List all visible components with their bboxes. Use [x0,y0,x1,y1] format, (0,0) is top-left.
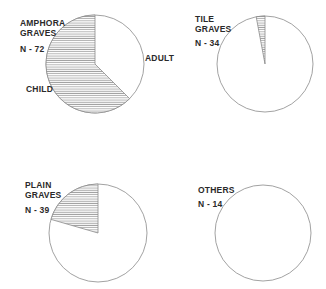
pie-amphora-adult-label: ADULT [145,53,175,63]
pie-tile-title-line2: GRAVES [195,24,232,34]
pie-amphora-title-line1: AMPHORA [20,18,65,28]
pie-amphora-n-label: N - 72 [20,44,44,54]
pie-plain-title-line1: PLAIN [25,180,52,190]
pie-tile-title-line1: TILE [195,14,214,24]
pie-others-n-label: N - 14 [198,199,222,209]
pie-amphora-title-line2: GRAVES [20,28,57,38]
pie-charts-figure: AMPHORA GRAVES N - 72 ADULT CHILD TILE G… [0,0,326,289]
pie-tile-graves: TILE GRAVES N - 34 [195,14,313,112]
pie-plain-graves: PLAIN GRAVES N - 39 [25,180,147,282]
pie-amphora-child-label: CHILD [26,84,53,94]
pie-others-adult-slice [215,185,311,281]
pie-plain-n-label: N - 39 [25,205,49,215]
pie-amphora-graves: AMPHORA GRAVES N - 72 ADULT CHILD [20,15,175,113]
pie-others: OTHERS N - 14 [198,185,311,281]
pie-plain-title-line2: GRAVES [25,190,62,200]
pie-tile-n-label: N - 34 [195,38,219,48]
pie-others-title: OTHERS [198,185,235,195]
